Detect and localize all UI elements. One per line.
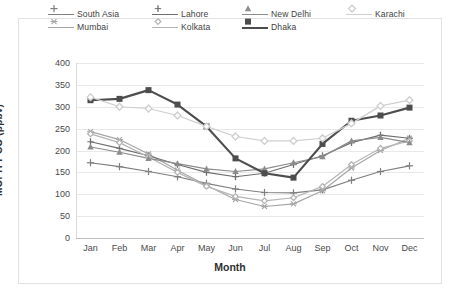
y-axis-tick-label: 350 [34,80,70,90]
y-axis-tick-label: 250 [34,124,70,134]
y-axis-line [76,63,77,238]
gridline [76,151,424,152]
y-axis-tick-label: 400 [34,58,70,68]
y-axis-tick-label: 50 [34,211,70,221]
gridline [76,129,424,130]
gridline [76,107,424,108]
gridline [76,63,424,64]
y-axis-tick-label: 100 [34,189,70,199]
gridline [76,172,424,173]
y-axis-tick-label: 300 [34,102,70,112]
y-axis-tick-label: 200 [34,146,70,156]
x-axis-tick-label: Dec [390,243,430,253]
axis-ticks-layer: 400350300250200150100500JanFebMarAprMayJ… [0,0,460,302]
y-axis-tick-label: 0 [34,233,70,243]
gridline [76,216,424,217]
gridline [76,85,424,86]
gridline [76,194,424,195]
y-axis-tick-label: 150 [34,167,70,177]
chart-figure: South AsiaLahoreNew DelhiKarachiMumbaiKo… [0,0,460,302]
x-axis-title: Month [0,261,460,273]
x-axis-line [76,238,424,239]
